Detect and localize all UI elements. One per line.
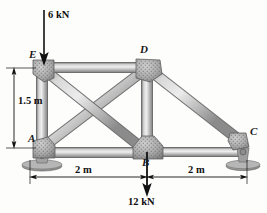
gusset-joint-C: [228, 133, 249, 150]
truss-drawing-canvas: [0, 0, 267, 213]
dimension-label-span-right: 2 m: [186, 165, 207, 176]
truss-diagram: E D A B C 6 kN 12 kN 1.5 m 2 m 2 m: [0, 0, 267, 213]
joint-label-A: A: [28, 133, 35, 144]
dimension-label-height: 1.5 m: [18, 96, 43, 107]
member-diagonal-DC: [147, 68, 243, 143]
joint-label-D: D: [140, 44, 148, 55]
load-label-12kN: 12 kN: [128, 197, 155, 208]
member-top-chord-ED: [40, 62, 150, 73]
joint-label-B: B: [142, 157, 149, 168]
dimension-label-span-left: 2 m: [73, 165, 94, 176]
load-label-6kN: 6 kN: [48, 10, 69, 21]
joint-label-E: E: [29, 49, 36, 60]
joint-label-C: C: [250, 126, 257, 137]
